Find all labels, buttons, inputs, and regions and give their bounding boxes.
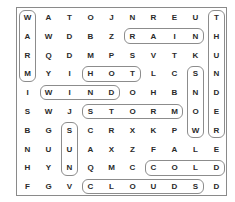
grid-cell[interactable]: O bbox=[80, 8, 101, 27]
grid-cell[interactable]: E bbox=[206, 140, 227, 159]
grid-cell[interactable]: P bbox=[101, 46, 122, 65]
found-word-highlight-sun bbox=[61, 122, 78, 175]
found-word-highlight-snow bbox=[187, 66, 204, 138]
grid-cell[interactable]: S bbox=[17, 102, 38, 121]
grid-cell[interactable]: W bbox=[38, 102, 59, 121]
grid-cell[interactable]: U bbox=[185, 8, 206, 27]
found-word-highlight-storm bbox=[82, 104, 183, 120]
grid-cell[interactable]: C bbox=[80, 121, 101, 140]
found-word-highlight-clouds bbox=[82, 179, 204, 195]
found-word-highlight-hot bbox=[82, 66, 141, 82]
found-word-highlight-wind bbox=[40, 85, 120, 101]
grid-cell[interactable]: V bbox=[59, 177, 80, 196]
grid-cell[interactable]: B bbox=[80, 27, 101, 46]
grid-cell[interactable]: Y bbox=[38, 64, 59, 83]
grid-cell[interactable]: Q bbox=[38, 46, 59, 65]
grid-cell[interactable]: B bbox=[17, 121, 38, 140]
grid-cell[interactable]: T bbox=[59, 8, 80, 27]
grid-cell[interactable]: X bbox=[101, 140, 122, 159]
grid-cell[interactable]: K bbox=[143, 121, 164, 140]
grid-cell[interactable]: D bbox=[59, 27, 80, 46]
grid-cell[interactable]: G bbox=[38, 121, 59, 140]
grid-cell[interactable]: M bbox=[80, 46, 101, 65]
grid-cell[interactable]: E bbox=[164, 8, 185, 27]
grid-cell[interactable]: Z bbox=[122, 140, 143, 159]
grid-cell[interactable]: I bbox=[17, 83, 38, 102]
word-search-grid: WATOJNREUTAWDBZRAINHRQDMPSVTKUMYIHOTLCSN… bbox=[16, 7, 227, 196]
found-word-highlight-rain bbox=[124, 28, 204, 44]
grid-cell[interactable]: K bbox=[185, 46, 206, 65]
grid-cell[interactable]: P bbox=[164, 121, 185, 140]
grid-cell[interactable]: L bbox=[185, 140, 206, 159]
grid-cell[interactable]: O bbox=[122, 83, 143, 102]
grid-cell[interactable]: U bbox=[38, 140, 59, 159]
grid-cell[interactable]: N bbox=[17, 140, 38, 159]
grid-cell[interactable]: S bbox=[122, 46, 143, 65]
grid-cell[interactable]: V bbox=[143, 46, 164, 65]
grid-cell[interactable]: W bbox=[38, 27, 59, 46]
grid-cell[interactable]: Y bbox=[38, 158, 59, 177]
grid-cell[interactable]: Q bbox=[80, 158, 101, 177]
grid-cell[interactable]: A bbox=[38, 8, 59, 27]
grid-cell[interactable]: F bbox=[143, 140, 164, 159]
grid-cell[interactable]: Z bbox=[101, 27, 122, 46]
grid-cell[interactable]: R bbox=[143, 8, 164, 27]
grid-cell[interactable]: G bbox=[38, 177, 59, 196]
grid-cell[interactable]: F bbox=[17, 177, 38, 196]
grid-cell[interactable]: I bbox=[59, 64, 80, 83]
grid-cell[interactable]: J bbox=[59, 102, 80, 121]
grid-cell[interactable]: C bbox=[164, 64, 185, 83]
grid-cell[interactable]: L bbox=[143, 64, 164, 83]
grid-cell[interactable]: H bbox=[143, 83, 164, 102]
grid-cell[interactable]: J bbox=[101, 8, 122, 27]
grid-cell[interactable]: A bbox=[164, 140, 185, 159]
grid-cell[interactable]: X bbox=[122, 121, 143, 140]
found-word-highlight-thunder bbox=[208, 10, 225, 139]
grid-cell[interactable]: N bbox=[122, 8, 143, 27]
grid-cell[interactable]: T bbox=[164, 46, 185, 65]
grid-cell[interactable]: B bbox=[164, 83, 185, 102]
grid-cell[interactable]: D bbox=[59, 46, 80, 65]
found-word-highlight-cold bbox=[145, 160, 225, 176]
grid-cell[interactable]: M bbox=[101, 158, 122, 177]
grid-cell[interactable]: C bbox=[122, 158, 143, 177]
grid-cell[interactable]: H bbox=[17, 158, 38, 177]
found-word-highlight-warm bbox=[19, 10, 36, 82]
grid-cell[interactable]: A bbox=[80, 140, 101, 159]
grid-cell[interactable]: D bbox=[206, 177, 227, 196]
grid-cell[interactable]: R bbox=[101, 121, 122, 140]
